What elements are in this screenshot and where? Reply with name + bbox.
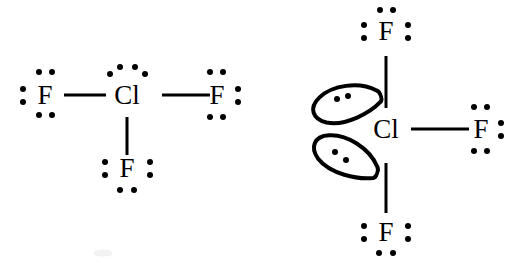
- right-F-south-left-1: [361, 223, 367, 229]
- atom-label-right-F-south: F: [378, 219, 393, 246]
- right-bond-north: [385, 56, 388, 108]
- right-lobe-lower-dot-1: [332, 149, 338, 155]
- right-F-north-right-1: [405, 22, 411, 28]
- right-lobe-lower-dot-2: [343, 157, 349, 163]
- lone-pair-lobe-lower: [307, 134, 383, 178]
- right-F-south-bottom-2: [390, 250, 396, 256]
- right-lobe-upper-dot-2: [345, 93, 351, 99]
- right-F-east-bottom-2: [484, 148, 490, 154]
- right-F-north-top-2: [390, 7, 396, 13]
- clf3-orbital-lobe-structure: FClFF: [0, 0, 509, 269]
- right-F-east-right-1: [498, 120, 504, 126]
- right-F-north-top-1: [377, 7, 383, 13]
- right-bond-east: [411, 128, 469, 131]
- right-F-south-bottom-1: [376, 250, 382, 256]
- lone-pair-lobe-upper: [307, 81, 383, 125]
- right-lobe-upper-dot-1: [334, 96, 340, 102]
- atom-label-right-Cl: Cl: [373, 116, 399, 143]
- right-F-north-right-2: [405, 35, 411, 41]
- right-F-east-right-2: [498, 133, 504, 139]
- right-F-north-left-1: [361, 22, 367, 28]
- atom-label-right-F-east: F: [473, 116, 488, 143]
- right-F-south-right-2: [405, 236, 411, 242]
- right-F-east-top-2: [484, 104, 490, 110]
- right-F-north-left-2: [361, 35, 367, 41]
- right-F-east-bottom-1: [471, 148, 477, 154]
- scan-smudge: [94, 250, 112, 257]
- right-bond-south: [385, 163, 388, 213]
- right-F-south-right-1: [405, 223, 411, 229]
- right-F-east-top-1: [471, 104, 477, 110]
- right-F-south-left-2: [361, 236, 367, 242]
- atom-label-right-F-north: F: [378, 18, 393, 45]
- lewis-structure-figure: FClFFFClFF: [0, 0, 509, 269]
